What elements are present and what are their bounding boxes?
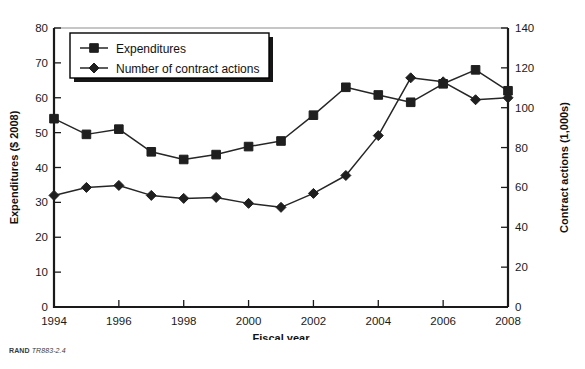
axis-titles: Fiscal yearExpenditures ($ 2008)Contract… [8,102,570,340]
data-point-marker [244,198,254,208]
legend-marker-square [90,44,99,53]
y-tick-label-right: 100 [515,102,534,114]
x-tick-label: 2008 [495,315,521,327]
data-point-marker [342,83,351,92]
y-tick-label-right: 60 [515,181,528,193]
data-point-marker [146,190,156,200]
data-point-marker [50,114,59,123]
data-point-marker [406,73,416,83]
y-axis-right-ticks: 020406080100120140 [501,22,534,313]
data-point-marker [179,155,188,164]
y-tick-label-right: 120 [515,62,534,74]
x-tick-label: 1994 [41,315,67,327]
data-point-marker [114,180,124,190]
y-tick-label-right: 80 [515,142,528,154]
data-point-marker [212,150,221,159]
data-point-marker [276,202,286,212]
data-point-marker [211,192,221,202]
data-point-marker [406,98,415,107]
data-point-marker [308,188,318,198]
x-tick-label: 2000 [236,315,262,327]
x-tick-label: 2002 [301,315,327,327]
y-tick-label-right: 40 [515,221,528,233]
y-tick-label-left: 30 [35,196,48,208]
y-tick-label-left: 60 [35,92,48,104]
data-point-marker [82,130,91,139]
x-axis-ticks: 19941996199820002002200420062008 [41,300,521,327]
y-tick-label-left: 70 [35,57,48,69]
y-axis-left-ticks: 01020304050607080 [35,22,61,313]
y-tick-label-left: 50 [35,127,48,139]
x-tick-label: 1996 [106,315,132,327]
y-axis-title-right: Contract actions (1,000s) [558,102,570,233]
data-point-marker [309,111,318,120]
y-tick-label-left: 80 [35,22,48,34]
data-point-marker [471,95,481,105]
data-point-marker [471,66,480,75]
x-axis-title: Fiscal year [253,332,311,340]
y-tick-label-right: 20 [515,261,528,273]
y-tick-label-left: 10 [35,266,48,278]
data-point-marker [374,91,383,100]
data-point-marker [81,182,91,192]
data-point-marker [115,125,124,134]
y-tick-label-left: 40 [35,162,48,174]
source-note-prefix: RAND [9,347,30,354]
data-point-marker [244,142,253,151]
x-tick-label: 2004 [365,315,391,327]
source-note-id: TR883-2.4 [32,347,66,354]
chart-legend: ExpendituresNumber of contract actions [70,33,273,82]
y-tick-label-left: 0 [42,301,48,313]
legend-label-0: Expenditures [116,42,186,56]
data-point-marker [147,148,156,157]
data-series-group [49,66,513,213]
legend-label-1: Number of contract actions [116,62,259,76]
data-point-marker [277,137,286,146]
figure-container: 19941996199820002002200420062008 0102030… [0,0,585,369]
source-note: RAND TR883-2.4 [9,347,66,354]
data-point-marker [49,190,59,200]
data-point-marker [179,193,189,203]
y-tick-label-left: 20 [35,231,48,243]
y-axis-title-left: Expenditures ($ 2008) [8,110,20,224]
x-tick-label: 2006 [430,315,456,327]
y-tick-label-right: 0 [515,301,521,313]
x-tick-label: 1998 [171,315,197,327]
y-tick-label-right: 140 [515,22,534,34]
line-chart: 19941996199820002002200420062008 0102030… [0,0,585,340]
